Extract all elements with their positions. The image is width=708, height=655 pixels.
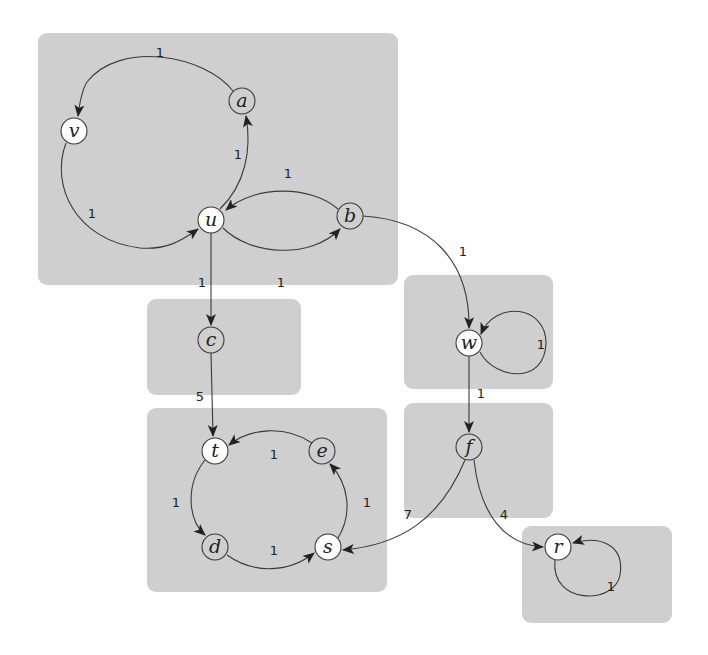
component-box-c (147, 299, 301, 395)
node-d[interactable]: d (202, 534, 228, 560)
weight-v-u: 1 (88, 206, 96, 221)
weight-b-u: 1 (284, 166, 292, 181)
node-a[interactable]: a (229, 88, 255, 114)
component-box-f (404, 403, 553, 518)
component-boxes (38, 33, 672, 623)
weight-e-t: 1 (270, 447, 278, 462)
node-label-u: u (205, 208, 217, 230)
node-s[interactable]: s (315, 534, 341, 560)
component-box-w (404, 275, 553, 389)
node-e[interactable]: e (309, 438, 335, 464)
weight-w-w: 1 (537, 337, 545, 352)
node-t[interactable]: t (202, 438, 228, 464)
weight-u-a: 1 (234, 147, 242, 162)
weight-d-s: 1 (270, 543, 278, 558)
node-label-s: s (323, 535, 333, 557)
weight-u-b: 1 (277, 275, 285, 290)
node-label-v: v (69, 119, 80, 141)
weight-b-w: 1 (459, 244, 467, 259)
node-label-e: e (316, 439, 327, 461)
node-f[interactable]: f (456, 434, 482, 460)
node-label-c: c (206, 328, 217, 350)
node-label-t: t (211, 439, 219, 461)
graph-canvas: 1 1 1 1 1 1 1 5 1 1 1 1 1 1 7 4 1 a v u (0, 0, 708, 655)
node-r[interactable]: r (545, 534, 571, 560)
weight-f-r: 4 (500, 507, 508, 522)
node-label-d: d (209, 535, 221, 557)
node-b[interactable]: b (337, 203, 363, 229)
weight-t-d: 1 (172, 495, 180, 510)
weight-r-r: 1 (607, 579, 615, 594)
node-c[interactable]: c (198, 327, 224, 353)
node-v[interactable]: v (61, 118, 87, 144)
weight-c-t: 5 (196, 389, 204, 404)
node-u[interactable]: u (198, 207, 224, 233)
node-label-a: a (236, 89, 247, 111)
component-box-tdes (147, 408, 387, 592)
weight-u-c: 1 (198, 275, 206, 290)
weight-f-s: 7 (404, 507, 412, 522)
weight-w-f: 1 (477, 386, 485, 401)
node-label-w: w (461, 331, 477, 353)
weight-s-e: 1 (363, 495, 371, 510)
node-label-b: b (344, 204, 356, 226)
component-box-auvb (38, 33, 398, 285)
weight-a-v: 1 (156, 45, 164, 60)
node-w[interactable]: w (456, 330, 482, 356)
